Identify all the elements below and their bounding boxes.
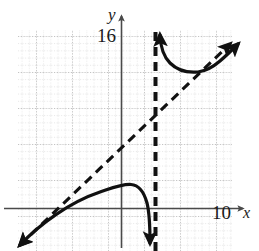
x-axis-label: x	[243, 205, 250, 221]
x-axis-tick-label-10: 10	[212, 203, 231, 222]
y-axis-label: y	[108, 6, 116, 23]
graph-figure: y x 16 10	[0, 0, 259, 251]
y-axis-tick-label-16: 16	[97, 26, 116, 45]
